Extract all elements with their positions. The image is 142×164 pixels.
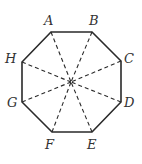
vertex-label-a: A	[43, 13, 53, 28]
dashed-line-c-to-center	[71, 61, 121, 82]
vertex-label-f: F	[44, 137, 55, 152]
vertex-label-b: B	[88, 13, 99, 28]
octagon-diagram: ABCDEFGH	[0, 0, 142, 164]
octagon-figure: ABCDEFGH	[0, 0, 142, 164]
dashed-line-e-to-center	[71, 82, 92, 132]
vertex-label-g: G	[7, 95, 17, 110]
octagon-outline	[22, 32, 121, 132]
vertex-label-c: C	[124, 51, 134, 66]
vertex-label-h: H	[4, 51, 17, 66]
vertex-label-d: D	[123, 95, 135, 110]
dashed-line-f-to-center	[52, 82, 71, 132]
vertex-label-e: E	[86, 137, 97, 152]
dashed-line-a-to-center	[51, 32, 71, 82]
dashed-line-g-to-center	[22, 82, 71, 102]
dashed-line-b-to-center	[71, 32, 92, 82]
